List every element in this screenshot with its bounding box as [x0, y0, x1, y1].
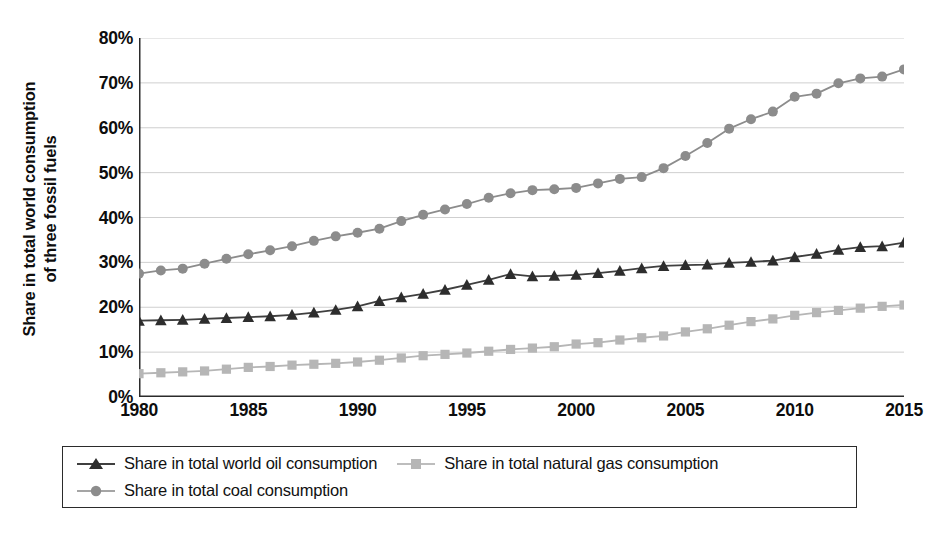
data-point: [331, 231, 341, 241]
data-point: [877, 72, 887, 82]
legend-row-2: Share in total coal consumption: [75, 481, 856, 508]
y-axis-tick-label: 50%: [71, 162, 133, 183]
data-point: [374, 224, 384, 234]
y-axis-tick-label: 10%: [71, 342, 133, 363]
y-axis-tick-label: 60%: [71, 117, 133, 138]
data-point: [899, 64, 904, 74]
data-point: [139, 269, 144, 279]
series-square: [139, 300, 904, 378]
plot-svg: [139, 38, 904, 397]
data-point: [178, 367, 187, 376]
data-point: [244, 363, 253, 372]
data-point: [833, 78, 843, 88]
series-line: [139, 69, 904, 273]
data-point: [440, 204, 450, 214]
legend-item-natural-gas[interactable]: Share in total natural gas consumption: [395, 454, 718, 473]
y-axis-title-line-2: of three fossil fuels: [40, 135, 61, 282]
x-axis-tick-label: 1985: [229, 400, 267, 421]
data-point: [724, 124, 734, 134]
x-axis-tick-labels: 19801985199019952000200520102015: [139, 400, 904, 428]
data-point: [790, 92, 800, 102]
data-point: [222, 365, 231, 374]
series-line: [139, 305, 904, 374]
x-axis-tick-label: 2000: [557, 400, 595, 421]
data-point: [659, 163, 669, 173]
data-point: [462, 199, 472, 209]
data-point: [571, 183, 581, 193]
data-point: [899, 300, 904, 309]
y-axis-tick-label: 30%: [71, 252, 133, 273]
data-point: [637, 172, 647, 182]
legend-item-coal[interactable]: Share in total coal consumption: [75, 481, 348, 500]
data-point: [397, 353, 406, 362]
y-axis-title-line-1: Share in total world consumption: [19, 82, 40, 337]
data-point: [418, 210, 428, 220]
chart-legend: Share in total world oil consumption Sha…: [62, 446, 857, 508]
data-point: [178, 264, 188, 274]
legend-label-natural-gas: Share in total natural gas consumption: [444, 454, 718, 473]
data-point: [353, 357, 362, 366]
data-point: [527, 185, 537, 195]
data-point: [615, 174, 625, 184]
data-point: [681, 327, 690, 336]
x-axis-tick-label: 1995: [448, 400, 486, 421]
data-point: [703, 324, 712, 333]
data-point: [834, 306, 843, 315]
y-axis-tick-label: 20%: [71, 297, 133, 318]
data-point: [440, 350, 449, 359]
series-line: [139, 243, 904, 321]
data-point: [593, 178, 603, 188]
data-point: [680, 151, 690, 161]
data-point: [768, 314, 777, 323]
data-point: [725, 321, 734, 330]
data-point: [200, 366, 209, 375]
data-point: [637, 333, 646, 342]
series-triangle: [139, 237, 904, 326]
data-point: [856, 304, 865, 313]
legend-label-coal: Share in total coal consumption: [124, 481, 348, 500]
data-point: [375, 356, 384, 365]
chart-figure: Share in total world consumption of thre…: [0, 0, 926, 535]
data-point: [746, 317, 755, 326]
data-point: [139, 369, 144, 378]
data-point: [309, 360, 318, 369]
square-marker-icon: [395, 456, 437, 472]
data-point: [550, 342, 559, 351]
data-point: [287, 241, 297, 251]
legend-row-1: Share in total world oil consumption Sha…: [75, 454, 856, 481]
data-point: [615, 335, 624, 344]
data-point: [768, 107, 778, 117]
data-point: [878, 302, 887, 311]
data-point: [855, 73, 865, 83]
data-point: [396, 216, 406, 226]
data-point: [746, 114, 756, 124]
data-point: [243, 249, 253, 259]
plot-area: [139, 38, 904, 397]
y-axis-tick-labels: 0%10%20%30%40%50%60%70%80%: [63, 38, 133, 397]
data-point: [156, 368, 165, 377]
data-point: [812, 308, 821, 317]
data-point: [265, 245, 275, 255]
x-axis-tick-label: 2005: [667, 400, 705, 421]
data-point: [309, 236, 319, 246]
x-axis-tick-label: 2010: [776, 400, 814, 421]
data-point: [221, 254, 231, 264]
y-axis-tick-label: 80%: [71, 28, 133, 49]
data-point: [462, 348, 471, 357]
y-axis-title: Share in total world consumption of thre…: [16, 9, 64, 409]
data-point: [506, 345, 515, 354]
data-point: [156, 265, 166, 275]
data-point: [331, 359, 340, 368]
data-point: [484, 347, 493, 356]
data-point: [528, 343, 537, 352]
data-point: [353, 228, 363, 238]
y-axis-tick-label: 40%: [71, 207, 133, 228]
data-point: [287, 361, 296, 370]
legend-item-oil[interactable]: Share in total world oil consumption: [75, 454, 377, 473]
data-point: [702, 138, 712, 148]
x-axis-tick-label: 2015: [885, 400, 923, 421]
triangle-marker-icon: [75, 456, 117, 472]
y-axis-tick-label: 70%: [71, 72, 133, 93]
data-point: [593, 338, 602, 347]
data-point: [266, 362, 275, 371]
